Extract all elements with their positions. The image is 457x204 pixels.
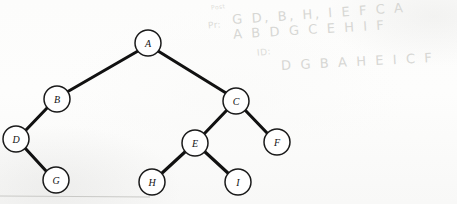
- page-bottom-rule: [0, 196, 150, 197]
- tree-node-d: D: [3, 126, 29, 152]
- node-label-c: C: [233, 96, 240, 107]
- node-label-i: I: [235, 177, 240, 188]
- edge-c-f: [245, 110, 268, 134]
- edge-a-c: [158, 51, 226, 93]
- tree-node-g: G: [43, 167, 69, 193]
- node-label-e: E: [191, 138, 198, 149]
- tree-node-h: H: [139, 169, 165, 195]
- tree-node-b: B: [44, 86, 70, 112]
- edge-d-g: [25, 148, 47, 172]
- edge-e-h: [161, 151, 186, 174]
- tree-node-f: F: [264, 129, 290, 155]
- tree-node-a: A: [135, 30, 161, 56]
- node-label-g: G: [52, 175, 59, 186]
- edge-a-b: [67, 51, 138, 92]
- node-label-f: F: [273, 137, 281, 148]
- tree-node-c: C: [223, 88, 249, 114]
- edge-c-e: [204, 110, 227, 134]
- tree-node-i: I: [225, 169, 251, 195]
- scanned-page: A B C D E F G H: [0, 0, 457, 204]
- node-label-h: H: [147, 177, 156, 188]
- tree-node-e: E: [182, 130, 208, 156]
- node-label-b: B: [54, 94, 60, 105]
- edge-e-i: [204, 151, 229, 174]
- node-label-d: D: [11, 134, 20, 145]
- binary-tree-diagram: A B C D E F G H: [0, 0, 457, 204]
- node-label-a: A: [144, 38, 152, 49]
- edge-b-d: [25, 107, 48, 131]
